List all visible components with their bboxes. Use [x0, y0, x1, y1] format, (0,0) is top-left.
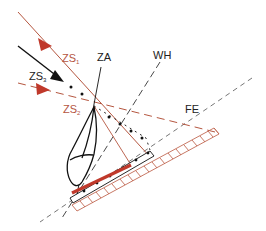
label-wh: WH [153, 49, 171, 61]
tooth-outline [67, 107, 96, 186]
arrow-zs1-icon [38, 38, 52, 51]
arrow-zs2-icon [36, 83, 50, 95]
projection-dots [70, 86, 144, 140]
projection-dotted-line [94, 106, 150, 150]
label-zs3: ZS3 [29, 70, 47, 83]
orthogonal-projection-line [94, 106, 131, 165]
label-zs2: ZS2 [63, 103, 81, 116]
radiography-geometry-diagram: ZS1 ZS3 ZS2 ZA WH FE [0, 0, 266, 231]
label-fe: FE [185, 103, 199, 115]
label-zs1: ZS1 [62, 52, 80, 65]
label-za: ZA [97, 51, 112, 63]
